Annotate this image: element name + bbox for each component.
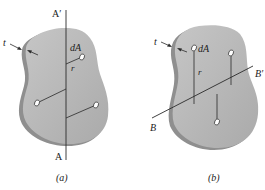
element-label-b: dA [198, 43, 210, 54]
axis-top-label-a: A′ [52, 8, 61, 19]
figure-a: A′ A t dA r (a) [3, 8, 108, 184]
thickness-label-a: t [3, 37, 6, 48]
axis-right-label-b: B′ [255, 68, 264, 79]
axis-left-label-b: B [150, 122, 156, 133]
thickness-label-b: t [154, 36, 157, 47]
axis-bottom-label-a: A [55, 151, 63, 162]
figure-b: t dA r B B′ (b) [150, 25, 264, 184]
moment-of-inertia-diagram: A′ A t dA r (a) t dA r B B′ (b) [0, 0, 265, 190]
caption-a: (a) [56, 172, 68, 184]
radius-label-a: r [71, 63, 75, 73]
element-label-a: dA [70, 42, 82, 53]
plate-face-b [173, 25, 259, 148]
radius-label-b: r [198, 67, 202, 77]
caption-b: (b) [208, 172, 220, 184]
